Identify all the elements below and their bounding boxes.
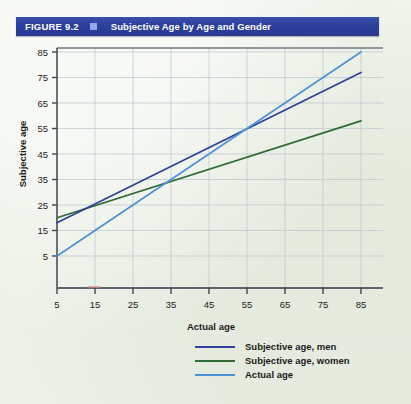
y-tick-label: 25 [37,200,48,211]
figure-number: FIGURE 9.2 [25,21,79,32]
legend-item: Subjective age, men [195,341,350,352]
legend-item: Subjective age, women [195,355,350,366]
y-tick-label: 75 [37,72,48,83]
header-square-icon [90,23,97,30]
y-tick-label: 15 [37,225,48,236]
y-tick-label: 55 [37,123,48,134]
legend-swatch-actual [195,374,235,376]
y-tick-label: 85 [37,47,48,58]
x-tick-label: 55 [242,299,253,310]
y-tick-label: 45 [37,149,48,160]
y-axis-label: Subjective age [17,121,28,188]
x-axis-label: Actual age [187,321,235,332]
y-tick-label: 65 [37,98,48,109]
x-tick-label: 65 [280,299,291,310]
line-chart: 5152535455565758551525354555657585Subjec… [0,40,411,340]
x-tick-label: 15 [90,299,101,310]
chart-area: 5152535455565758551525354555657585Subjec… [0,40,411,340]
figure-header-bar: FIGURE 9.2 Subjective Age by Age and Gen… [16,17,379,36]
legend-swatch-women [195,360,235,362]
chart-legend: Subjective age, men Subjective age, wome… [195,341,350,380]
x-tick-label: 45 [204,299,215,310]
y-tick-label: 35 [37,174,48,185]
x-tick-label: 5 [54,299,59,310]
x-tick-label: 25 [128,299,139,310]
figure-title: Subjective Age by Age and Gender [111,21,271,32]
legend-label-women: Subjective age, women [245,355,350,366]
legend-label-men: Subjective age, men [245,341,336,352]
legend-label-actual: Actual age [245,369,293,380]
x-tick-label: 35 [166,299,177,310]
y-tick-label: 5 [43,251,48,262]
legend-swatch-men [195,346,235,348]
x-tick-label: 75 [318,299,329,310]
legend-item: Actual age [195,369,350,380]
x-tick-label: 85 [356,299,367,310]
